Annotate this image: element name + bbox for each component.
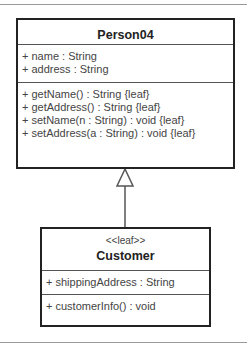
operations-compartment: + getName() : String {leaf} + getAddress… [18,82,233,140]
operation: + getAddress() : String {leaf} [18,101,233,114]
operation: + setAddress(a : String) : void {leaf} [18,127,233,140]
attributes-compartment: + shippingAddress : String [42,270,209,294]
attributes-compartment: + name : String + address : String [18,44,233,82]
stereotype: <<leaf>> [42,235,209,246]
class-person04[interactable]: Person04 + name : String + address : Str… [16,18,235,169]
operation: + setName(n : String) : void {leaf} [18,114,233,127]
class-customer[interactable]: <<leaf>> Customer + shippingAddress : St… [40,227,211,327]
operation: + getName() : String {leaf} [18,88,233,101]
operation: + customerInfo() : void [42,300,209,313]
attribute: + shippingAddress : String [42,276,209,289]
class-name: Person04 [97,28,153,42]
class-name: Customer [42,249,209,263]
attribute: + address : String [18,63,233,76]
attribute: + name : String [18,50,233,63]
class-header: Person04 [18,20,233,44]
operations-compartment: + customerInfo() : void [42,294,209,313]
class-header: <<leaf>> Customer [42,229,209,270]
